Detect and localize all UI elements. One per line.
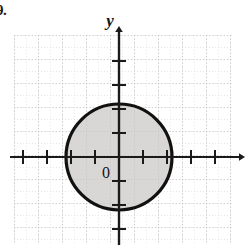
origin-label: 0 xyxy=(102,164,110,181)
figure-container: 9. xyxy=(0,0,246,247)
y-axis-label: y xyxy=(104,11,114,30)
coordinate-plane-graph: y 0 xyxy=(0,0,246,247)
